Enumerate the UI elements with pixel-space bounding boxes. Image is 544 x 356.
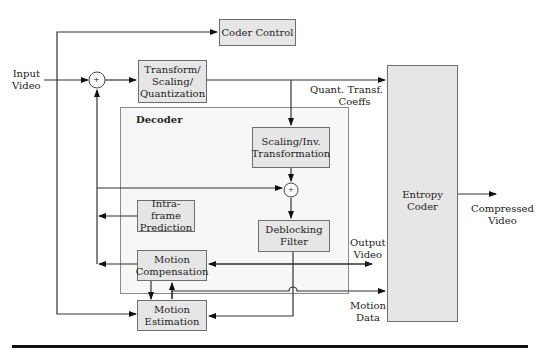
output-video-line2: Video bbox=[350, 249, 386, 261]
bottom-rule bbox=[12, 345, 528, 348]
output-video-line1: Output bbox=[350, 237, 386, 249]
coder-control-block: Coder Control bbox=[219, 19, 296, 46]
motion-compensation-block: Motion Compensation bbox=[137, 250, 207, 281]
entropy-coder-block: Entropy Coder bbox=[387, 65, 458, 322]
motion-est-label-2: Estimation bbox=[145, 316, 200, 328]
motion-est-label-1: Motion bbox=[154, 304, 190, 316]
transform-label-1: Transform/ bbox=[144, 64, 200, 76]
deblocking-label-1: Deblocking bbox=[265, 224, 322, 236]
coder-control-label: Coder Control bbox=[221, 27, 293, 39]
transform-label-3: Quantization bbox=[140, 88, 205, 100]
scaling-inv-label-2: Transformation bbox=[252, 148, 331, 160]
motion-data-line2: Data bbox=[350, 312, 386, 324]
input-video-label: Input Video bbox=[12, 68, 41, 92]
input-video-line2: Video bbox=[12, 80, 41, 92]
intra-prediction-block: Intra-frame Prediction bbox=[137, 200, 195, 232]
motion-data-line1: Motion bbox=[350, 300, 386, 312]
deblocking-filter-block: Deblocking Filter bbox=[258, 220, 330, 252]
sum-symbol-input: + bbox=[93, 74, 100, 86]
motion-data-label: Motion Data bbox=[350, 300, 386, 324]
compressed-video-line2: Video bbox=[471, 215, 534, 227]
transform-block: Transform/ Scaling/ Quantization bbox=[138, 60, 207, 103]
motion-estimation-block: Motion Estimation bbox=[137, 300, 207, 331]
quant-coeffs-line2: Coeffs bbox=[310, 96, 383, 108]
deblocking-label-2: Filter bbox=[280, 236, 308, 248]
sum-symbol-decoder: + bbox=[288, 184, 294, 196]
compressed-video-label: Compressed Video bbox=[471, 203, 534, 227]
transform-label-2: Scaling/ bbox=[152, 76, 193, 88]
motion-comp-label-2: Compensation bbox=[136, 266, 209, 278]
entropy-label: Entropy Coder bbox=[388, 189, 457, 213]
quant-coeffs-line1: Quant. Transf. bbox=[310, 84, 383, 96]
input-video-line1: Input bbox=[12, 68, 41, 80]
intra-label-1: Intra-frame bbox=[138, 198, 194, 222]
quant-coeffs-label: Quant. Transf. Coeffs bbox=[310, 84, 383, 108]
motion-comp-label-1: Motion bbox=[154, 254, 190, 266]
intra-label-2: Prediction bbox=[140, 222, 192, 234]
compressed-video-line1: Compressed bbox=[471, 203, 534, 215]
output-video-label: Output Video bbox=[350, 237, 386, 261]
scaling-inv-label-1: Scaling/Inv. bbox=[261, 136, 320, 148]
scaling-inv-block: Scaling/Inv. Transformation bbox=[252, 127, 330, 168]
connector-lines bbox=[0, 0, 544, 356]
